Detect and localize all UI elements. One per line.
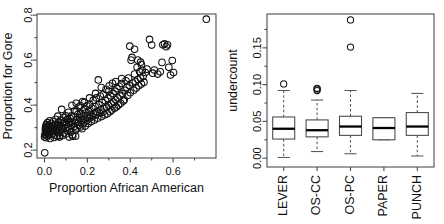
- scatter-points: [41, 16, 209, 156]
- boxplot-box: [273, 81, 295, 158]
- category-label-os-cc: OS-CC: [309, 175, 323, 215]
- y-tick-label: 0.8: [22, 7, 34, 22]
- category-label-paper: PAPER: [376, 175, 390, 216]
- data-point: [131, 46, 138, 53]
- figure-root: 0.00.20.40.60.20.40.60.8Proportion Afric…: [0, 0, 444, 224]
- category-label-os-pc: OS-PC: [343, 175, 357, 215]
- outlier-point: [347, 17, 353, 23]
- data-point: [169, 57, 176, 64]
- box-rect: [306, 120, 328, 137]
- x-axis-label: Proportion African American: [49, 181, 204, 195]
- x-tick-label: 0.2: [80, 165, 95, 177]
- y-tick-label: 0.05: [251, 111, 263, 132]
- data-point: [203, 16, 210, 23]
- boxplot-box: [339, 17, 361, 154]
- x-tick-label: 0.4: [123, 165, 138, 177]
- data-point: [159, 59, 166, 66]
- y-tick-label: 0.2: [22, 142, 34, 157]
- data-point: [58, 106, 65, 113]
- y-tick-label: 0.10: [251, 74, 263, 95]
- scatter-plot-svg: 0.00.20.40.60.20.40.60.8Proportion Afric…: [0, 0, 222, 224]
- box-rect: [406, 113, 428, 136]
- y-axis-label: undercount: [226, 49, 240, 112]
- y-axis-label: Proportion for Gore: [1, 32, 15, 139]
- y-tick-label: 0.6: [22, 52, 34, 67]
- data-point: [148, 42, 155, 49]
- outlier-point: [347, 44, 353, 50]
- x-tick-label: 0.6: [165, 165, 180, 177]
- boxplot-svg: 0.000.050.100.15LEVEROS-CCOS-PCPAPERPUNC…: [222, 0, 444, 224]
- category-label-punch: PUNCH: [410, 175, 424, 219]
- category-label-lever: LEVER: [276, 175, 290, 216]
- x-tick-label: 0.0: [37, 165, 52, 177]
- y-tick-label: 0.00: [251, 147, 263, 168]
- boxplot-box: [406, 93, 428, 156]
- boxplot-box: [373, 118, 395, 140]
- boxplot-box: [306, 85, 328, 151]
- y-tick-label: 0.15: [251, 37, 263, 58]
- y-tick-label: 0.4: [22, 97, 34, 112]
- scatter-panel: 0.00.20.40.60.20.40.60.8Proportion Afric…: [0, 0, 222, 224]
- boxplot-panel: 0.000.050.100.15LEVEROS-CCOS-PCPAPERPUNC…: [222, 0, 444, 224]
- data-point: [95, 77, 102, 84]
- data-point: [127, 43, 134, 50]
- outlier-point: [281, 81, 287, 87]
- data-point: [41, 150, 48, 157]
